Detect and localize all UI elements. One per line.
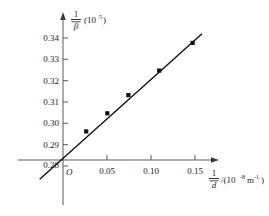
origin-label: O: [66, 167, 73, 177]
x-tick-label: 0.15: [187, 166, 203, 176]
y-axis-arrow-icon: [60, 12, 66, 20]
x-tick-label: 0.10: [143, 166, 159, 176]
y-axis-label: 1 β (10 5 ): [71, 9, 106, 31]
y-axis-label-exponent-close: ): [103, 15, 106, 25]
y-tick-label: 0.29: [43, 140, 59, 150]
x-tick-labels: 0.05 0.10 0.15: [99, 166, 203, 176]
y-axis-label-exponent-sup: 5: [99, 14, 102, 20]
y-axis-label-exponent-open: (10: [84, 15, 96, 25]
y-axis-label-numerator: 1: [74, 9, 79, 19]
y-tick-label: 0.33: [43, 54, 59, 64]
y-tick-label: 0.31: [43, 97, 59, 107]
y-tick-label: 0.30: [43, 118, 59, 128]
y-tick-label: 0.34: [43, 33, 59, 43]
x-axis-arrow-icon: [211, 157, 219, 163]
x-axis-unit-sup2: -1: [254, 174, 259, 180]
x-axis-unit-close: ): [261, 175, 264, 185]
data-point: [126, 93, 130, 97]
x-axis-label: 1 d /(10 -8 m -1 ): [209, 168, 264, 190]
y-axis-label-denominator: β: [73, 21, 79, 31]
x-axis-label-numerator: 1: [212, 168, 217, 178]
y-tick-labels: 0.34 0.33 0.32 0.31 0.30 0.29 0.28: [43, 33, 59, 170]
x-axis-unit-open: /(10: [221, 175, 236, 185]
fit-line-group: [40, 34, 202, 180]
x-tick-marks: [107, 155, 195, 160]
x-axis-label-denominator: d: [212, 180, 217, 190]
data-point: [105, 111, 109, 115]
chart-figure: 0.34 0.33 0.32 0.31 0.30 0.29 0.28 0.05 …: [0, 0, 269, 216]
data-point: [84, 129, 88, 133]
data-point: [157, 69, 161, 73]
x-axis-unit-sup: -8: [240, 174, 245, 180]
fit-line: [40, 34, 202, 180]
x-tick-label: 0.05: [99, 166, 115, 176]
x-axis-unit-mid: m: [247, 175, 254, 185]
y-tick-marks: [63, 38, 68, 166]
data-point: [191, 41, 195, 45]
chart-svg: 0.34 0.33 0.32 0.31 0.30 0.29 0.28 0.05 …: [0, 0, 269, 216]
y-tick-label: 0.32: [43, 76, 59, 86]
